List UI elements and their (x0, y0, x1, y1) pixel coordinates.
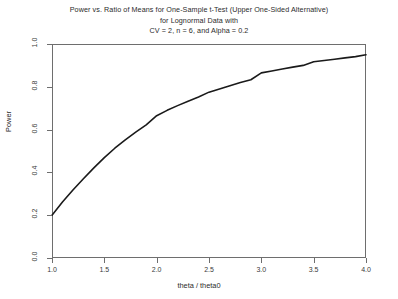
y-tick-mark (47, 172, 52, 173)
y-tick-mark (47, 87, 52, 88)
y-tick-label: 0.8 (31, 75, 38, 95)
chart-title-line-2: for Lognormal Data with (0, 16, 398, 27)
x-tick-label: 2.5 (197, 266, 221, 273)
y-tick-mark (47, 215, 52, 216)
y-axis-title: Power (4, 111, 13, 132)
chart-title: Power vs. Ratio of Means for One-Sample … (0, 5, 398, 37)
x-tick-label: 2.0 (145, 266, 169, 273)
x-tick-label: 3.0 (249, 266, 273, 273)
chart-title-line-3: CV = 2, n = 6, and Alpha = 0.2 (0, 26, 398, 37)
y-tick-label: 0.4 (31, 161, 38, 181)
y-tick-label: 1.0 (31, 33, 38, 53)
x-tick-label: 1.5 (92, 266, 116, 273)
x-tick-mark (104, 258, 105, 263)
y-tick-mark (47, 130, 52, 131)
x-tick-mark (157, 258, 158, 263)
chart-title-line-1: Power vs. Ratio of Means for One-Sample … (0, 5, 398, 16)
y-tick-label: 0.2 (31, 204, 38, 224)
x-tick-mark (209, 258, 210, 263)
y-tick-label: 0.0 (31, 247, 38, 267)
x-tick-label: 4.0 (354, 266, 378, 273)
x-tick-label: 1.0 (40, 266, 64, 273)
x-tick-mark (366, 258, 367, 263)
x-axis-title: theta / theta0 (0, 281, 398, 290)
plot-frame (52, 44, 366, 258)
y-tick-label: 0.6 (31, 118, 38, 138)
x-tick-mark (314, 258, 315, 263)
x-tick-mark (52, 258, 53, 263)
y-tick-mark (47, 44, 52, 45)
x-tick-label: 3.5 (302, 266, 326, 273)
x-tick-mark (261, 258, 262, 263)
